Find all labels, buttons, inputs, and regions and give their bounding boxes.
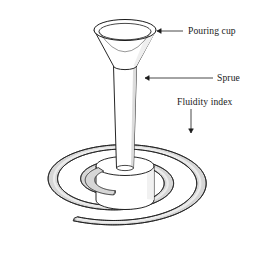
sprue-bottom-opening bbox=[117, 165, 134, 170]
label-pouring-cup: Pouring cup bbox=[188, 25, 236, 36]
fluidity-test-diagram: Pouring cup Sprue Fluidity index bbox=[0, 0, 263, 266]
label-sprue: Sprue bbox=[217, 72, 240, 83]
label-fluidity-index: Fluidity index bbox=[177, 96, 233, 107]
diagram-canvas: Pouring cup Sprue Fluidity index bbox=[0, 0, 263, 266]
sprue-tube bbox=[114, 66, 137, 171]
